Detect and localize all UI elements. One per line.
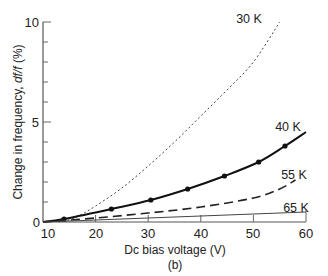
x-axis-title: Dc bias voltage (V): [124, 243, 225, 257]
series-line-65k: [43, 212, 306, 222]
y-tick-label-5: 5: [32, 115, 39, 130]
data-point-marker: [222, 173, 227, 178]
series-line-30k: [59, 22, 280, 222]
data-point-marker: [148, 197, 153, 202]
series-label-65k: 65 K: [283, 201, 309, 215]
series-label-55k: 55 K: [281, 168, 307, 182]
data-point-marker: [185, 186, 190, 191]
series-label-40k: 40 K: [275, 120, 301, 134]
y-tick-label-10: 10: [25, 15, 39, 30]
axes: [43, 22, 306, 222]
series-layer: [43, 22, 306, 222]
data-point-marker: [282, 143, 287, 148]
y-ticks: [43, 22, 51, 202]
x-tick-label-60: 60: [299, 226, 313, 241]
series-label-30k: 30 K: [236, 12, 262, 26]
figure-caption: (b): [168, 258, 183, 272]
data-point-marker: [109, 206, 114, 211]
series-line-40k: [43, 132, 306, 222]
x-tick-label-20: 20: [89, 226, 103, 241]
data-point-marker: [256, 159, 261, 164]
y-tick-label-0: 0: [33, 215, 40, 230]
x-tick-label-30: 30: [141, 226, 155, 241]
x-tick-label-40: 40: [194, 226, 208, 241]
x-tick-label-10: 10: [41, 226, 55, 241]
y-axis-title: Change in frequency, df/f (%): [11, 44, 25, 199]
x-tick-label-50: 50: [246, 226, 260, 241]
chart: 10 5 0 10 20 30 40 50 60 Dc bias voltage…: [0, 0, 328, 276]
